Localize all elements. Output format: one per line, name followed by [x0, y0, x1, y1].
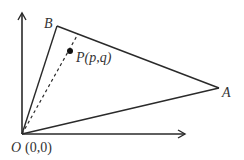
- point-P-dot: [67, 48, 73, 54]
- label-P: P(p,q): [75, 50, 112, 66]
- segment-OA: [22, 88, 219, 134]
- triangle-diagram: B A P(p,q) O (0,0): [0, 0, 244, 160]
- label-A: A: [221, 85, 231, 100]
- label-B: B: [44, 16, 53, 31]
- label-origin-coords: (0,0): [25, 140, 52, 156]
- label-O: O: [11, 140, 21, 155]
